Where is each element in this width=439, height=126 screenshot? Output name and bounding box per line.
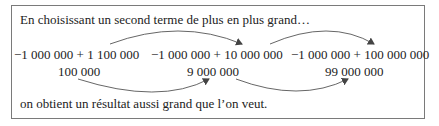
arrow-result-2-to-3 (236, 79, 348, 91)
arrow-result-1-to-2 (78, 79, 209, 92)
arrow-expr-2-to-3 (270, 31, 374, 44)
arrow-expr-1-to-2 (110, 31, 242, 44)
arrows-diagram (0, 0, 439, 126)
